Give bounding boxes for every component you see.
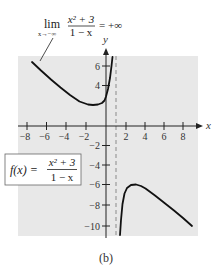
x-axis-label: x xyxy=(205,119,211,131)
svg-text:6: 6 xyxy=(162,131,167,142)
svg-text:2: 2 xyxy=(124,131,129,142)
svg-text:= +∞: = +∞ xyxy=(99,19,122,31)
svg-text:8: 8 xyxy=(181,131,186,142)
formula-box: f(x) = x² + 3 1 − x xyxy=(5,154,81,185)
svg-text:−2: −2 xyxy=(89,140,100,151)
svg-text:f(x) =: f(x) = xyxy=(10,163,38,177)
y-axis-arrow-icon xyxy=(103,48,109,55)
figure-caption: (b) xyxy=(99,251,113,265)
svg-text:−8: −8 xyxy=(89,200,100,211)
svg-text:−2: −2 xyxy=(79,131,90,142)
svg-text:x² + 3: x² + 3 xyxy=(48,156,76,168)
svg-text:1 − x: 1 − x xyxy=(70,26,93,38)
svg-text:x→−∞: x→−∞ xyxy=(38,30,56,37)
x-axis-arrow-icon xyxy=(196,123,203,129)
svg-text:−6: −6 xyxy=(39,131,50,142)
svg-text:−4: −4 xyxy=(89,160,100,171)
limit-annotation: lim x→−∞ x² + 3 1 − x = +∞ xyxy=(38,13,122,61)
svg-text:−10: −10 xyxy=(84,221,100,232)
svg-text:1 − x: 1 − x xyxy=(51,171,74,183)
svg-text:−4: −4 xyxy=(59,131,70,142)
svg-text:−8: −8 xyxy=(20,131,31,142)
svg-text:−6: −6 xyxy=(89,179,100,190)
svg-text:lim: lim xyxy=(44,17,61,31)
svg-text:6: 6 xyxy=(95,61,100,72)
y-axis-label: y xyxy=(102,33,108,45)
figure: x y −8 −6 −4 −2 2 4 6 8 6 4 −2 −4 xyxy=(0,0,215,277)
svg-text:4: 4 xyxy=(143,131,148,142)
svg-text:x² + 3: x² + 3 xyxy=(67,13,95,25)
svg-text:4: 4 xyxy=(95,80,100,91)
